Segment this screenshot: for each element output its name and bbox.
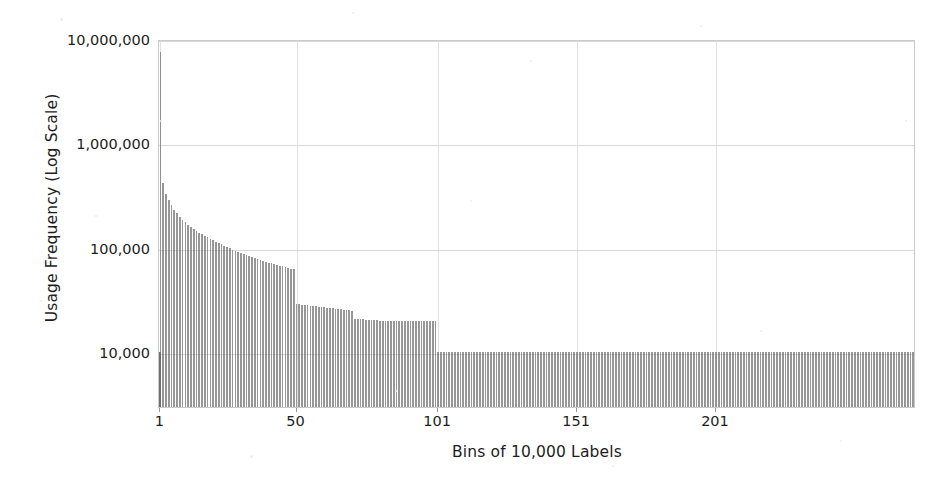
scan-speckle xyxy=(60,18,63,21)
scan-speckle xyxy=(840,440,842,442)
x-axis-tick-labels: 150101151201 xyxy=(0,0,945,483)
x-tick-mark xyxy=(159,408,160,412)
scan-speckle xyxy=(612,465,614,467)
scan-speckle xyxy=(160,120,162,122)
x-tick-mark xyxy=(715,408,716,412)
x-axis-title: Bins of 10,000 Labels xyxy=(158,443,916,461)
chart-figure: Usage Frequency (Log Scale) 10,000,0001,… xyxy=(0,0,945,483)
scan-speckle xyxy=(905,120,907,122)
scan-speckle xyxy=(40,300,42,302)
x-tick-mark xyxy=(296,408,297,412)
x-tick-label: 201 xyxy=(670,413,760,429)
scan-speckle xyxy=(352,12,354,14)
scan-speckle xyxy=(530,60,532,62)
x-tick-mark xyxy=(576,408,577,412)
scan-speckle xyxy=(128,40,130,42)
scan-speckle xyxy=(470,200,472,202)
scan-speckle xyxy=(95,215,97,217)
scan-speckle xyxy=(250,455,253,458)
scan-speckle xyxy=(760,330,762,332)
scan-speckle xyxy=(700,25,702,27)
scan-speckle xyxy=(395,390,397,392)
x-tick-mark xyxy=(437,408,438,412)
x-tick-label: 1 xyxy=(114,413,204,429)
x-tick-label: 151 xyxy=(531,413,621,429)
x-tick-label: 50 xyxy=(251,413,341,429)
x-tick-label: 101 xyxy=(392,413,482,429)
